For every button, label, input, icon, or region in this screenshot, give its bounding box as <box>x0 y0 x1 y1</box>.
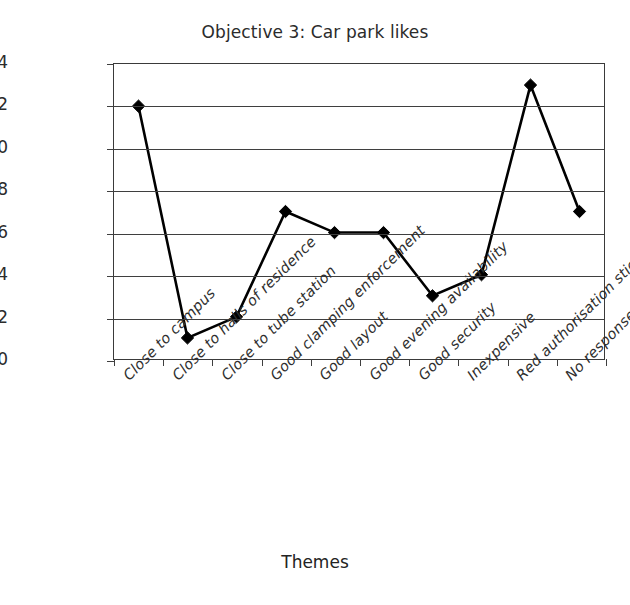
chart-figure: Objective 3: Car park likes Number of co… <box>0 0 630 605</box>
x-tick-mark <box>606 359 607 366</box>
x-tick-mark <box>311 359 312 366</box>
x-tick-mark <box>458 359 459 366</box>
y-tick-mark <box>107 361 114 362</box>
y-tick-label: 14 <box>0 52 8 72</box>
data-point-marker <box>573 205 585 217</box>
x-tick-mark <box>508 359 509 366</box>
gridline <box>114 234 604 235</box>
gridline <box>114 149 604 150</box>
x-tick-mark <box>360 359 361 366</box>
y-tick-mark <box>107 319 114 320</box>
y-tick-mark <box>107 149 114 150</box>
gridline <box>114 191 604 192</box>
data-point-marker <box>328 226 340 238</box>
y-axis-title: Number of comments <box>0 125 2 365</box>
x-tick-mark <box>557 359 558 366</box>
y-tick-mark <box>107 64 114 65</box>
y-tick-mark <box>107 106 114 107</box>
x-axis-title: Themes <box>0 552 630 572</box>
y-tick-label: 2 <box>0 307 8 327</box>
gridline <box>114 276 604 277</box>
y-tick-mark <box>107 276 114 277</box>
data-point-marker <box>279 205 291 217</box>
data-point-marker <box>181 332 193 344</box>
y-tick-label: 8 <box>0 179 8 199</box>
y-tick-label: 0 <box>0 349 8 369</box>
gridline <box>114 106 604 107</box>
x-tick-mark <box>114 359 115 366</box>
y-tick-label: 12 <box>0 94 8 114</box>
chart-title: Objective 3: Car park likes <box>0 22 630 42</box>
x-tick-mark <box>212 359 213 366</box>
x-tick-mark <box>409 359 410 366</box>
y-tick-label: 4 <box>0 264 8 284</box>
data-point-marker <box>524 79 536 91</box>
y-tick-label: 6 <box>0 222 8 242</box>
x-tick-mark <box>262 359 263 366</box>
x-tick-mark <box>163 359 164 366</box>
y-tick-label: 10 <box>0 137 8 157</box>
y-tick-mark <box>107 191 114 192</box>
y-tick-mark <box>107 234 114 235</box>
